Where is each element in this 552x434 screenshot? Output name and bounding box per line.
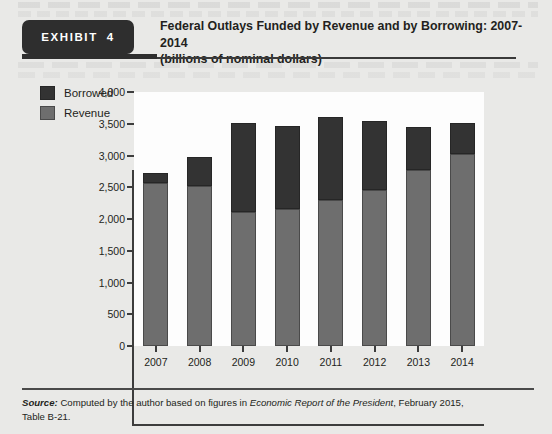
- legend-label-revenue: Revenue: [64, 107, 110, 119]
- bar-group[interactable]: [187, 92, 212, 346]
- bar-segment-borrowed[interactable]: [362, 121, 387, 190]
- bar-segment-revenue[interactable]: [318, 200, 343, 346]
- x-axis-tick-label: 2008: [188, 356, 211, 368]
- page-bleed-text-top: [18, 2, 538, 18]
- bar-group[interactable]: [450, 92, 475, 346]
- bar-segment-revenue[interactable]: [231, 212, 256, 346]
- exhibit-badge: EXHIBIT 4: [22, 20, 134, 54]
- bar-segment-borrowed[interactable]: [231, 123, 256, 213]
- x-axis-line: [132, 424, 484, 426]
- exhibit-title-line-2: (billions of nominal dollars): [160, 51, 534, 68]
- bar-segment-revenue[interactable]: [362, 190, 387, 346]
- plot-inner: 05001,0001,5002,0002,5003,0003,5004,0002…: [134, 92, 484, 346]
- x-axis-tick-label: 2011: [320, 356, 343, 368]
- bar-segment-borrowed[interactable]: [143, 173, 168, 183]
- legend-swatch-borrowed-icon: [40, 86, 55, 100]
- exhibit-title: Federal Outlays Funded by Revenue and by…: [160, 18, 534, 68]
- exhibit-badge-underbar: [22, 54, 157, 59]
- legend-item-borrowed: Borrowed: [40, 86, 113, 100]
- bar-segment-borrowed[interactable]: [450, 123, 475, 154]
- x-axis-tick-mark: [199, 346, 201, 352]
- y-axis-tick-mark: [127, 91, 134, 93]
- x-axis-tick-mark: [242, 346, 244, 352]
- bar-segment-revenue[interactable]: [275, 209, 300, 346]
- bar-segment-revenue[interactable]: [187, 186, 212, 346]
- exhibit-badge-word: EXHIBIT: [41, 31, 98, 43]
- title-divider-rule: [157, 57, 516, 59]
- x-axis-tick-mark: [330, 346, 332, 352]
- source-italic-work: Economic Report of the President: [250, 397, 393, 408]
- x-axis-tick-label: 2013: [407, 356, 430, 368]
- bar-segment-revenue[interactable]: [143, 183, 168, 346]
- bar-group[interactable]: [362, 92, 387, 346]
- x-axis-tick-mark: [286, 346, 288, 352]
- source-text-after: , February 2015,: [393, 397, 463, 408]
- y-axis-tick-mark: [127, 123, 134, 125]
- source-line-2: Table B-21.: [22, 410, 534, 424]
- bar-segment-borrowed[interactable]: [275, 126, 300, 209]
- x-axis-tick-mark: [417, 346, 419, 352]
- bar-group[interactable]: [275, 92, 300, 346]
- bar-segment-revenue[interactable]: [406, 170, 431, 346]
- chart-legend: Borrowed Revenue: [40, 86, 113, 126]
- legend-item-revenue: Revenue: [40, 106, 113, 120]
- bar-segment-borrowed[interactable]: [187, 157, 212, 186]
- exhibit-header: EXHIBIT 4 Federal Outlays Funded by Reve…: [22, 20, 534, 64]
- source-divider-rule: [22, 388, 534, 390]
- legend-label-borrowed: Borrowed: [64, 87, 113, 99]
- bar-group[interactable]: [231, 92, 256, 346]
- bar-segment-borrowed[interactable]: [318, 117, 343, 200]
- bar-segment-borrowed[interactable]: [406, 127, 431, 170]
- x-axis-tick-mark: [374, 346, 376, 352]
- bar-segment-revenue[interactable]: [450, 154, 475, 346]
- source-label: Source:: [22, 397, 58, 408]
- bar-group[interactable]: [406, 92, 431, 346]
- x-axis-tick-mark: [155, 346, 157, 352]
- exhibit-badge-number: 4: [107, 31, 115, 43]
- source-note: Source: Computed by the author based on …: [22, 396, 534, 423]
- x-axis-tick-label: 2010: [275, 356, 298, 368]
- bar-group[interactable]: [143, 92, 168, 346]
- source-text-before: Computed by the author based on figures …: [58, 397, 250, 408]
- y-axis-tick-mark: [127, 155, 134, 157]
- x-axis-tick-label: 2009: [232, 356, 255, 368]
- x-axis-tick-label: 2012: [363, 356, 386, 368]
- bar-group[interactable]: [318, 92, 343, 346]
- x-axis-tick-mark: [461, 346, 463, 352]
- chart-container: 05001,0001,5002,0002,5003,0003,5004,0002…: [22, 78, 530, 368]
- x-axis-tick-label: 2007: [144, 356, 167, 368]
- exhibit-title-line-1: Federal Outlays Funded by Revenue and by…: [160, 18, 534, 51]
- x-axis-tick-label: 2014: [450, 356, 473, 368]
- legend-swatch-revenue-icon: [40, 106, 55, 120]
